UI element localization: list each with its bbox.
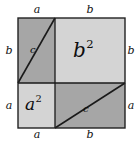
area-label-b-squared: b2: [73, 40, 93, 60]
edge-label-right-upper: b: [125, 45, 137, 56]
edge-label-bottom-right: b: [83, 129, 97, 140]
hypotenuse-label-bottom-right: c: [83, 104, 89, 114]
area-label-a-squared-base: a: [25, 94, 35, 114]
edge-label-right-lower: a: [125, 100, 137, 111]
edge-label-bottom-left: a: [30, 129, 44, 140]
area-label-a-squared-exponent: 2: [35, 93, 41, 104]
pythagorean-diagram: a b b a b a a b c c b2 a2: [0, 0, 137, 143]
area-label-b-squared-exponent: 2: [86, 37, 93, 51]
edge-label-top-left: a: [30, 4, 44, 15]
area-label-a-squared: a2: [25, 95, 41, 113]
edge-label-left-upper: b: [3, 45, 15, 56]
hypotenuse-label-top-left: c: [30, 45, 36, 55]
edge-label-left-lower: a: [3, 100, 15, 111]
area-label-b-squared-base: b: [73, 38, 86, 62]
edge-label-top-right: b: [83, 4, 97, 15]
diagram-canvas: [0, 0, 137, 143]
